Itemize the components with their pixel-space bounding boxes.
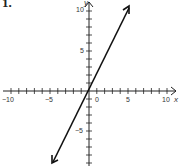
y-tick-label-5: 5 xyxy=(80,47,84,54)
y-axis-label: y xyxy=(84,0,88,7)
x-tick-label-0: 0 xyxy=(95,96,99,103)
series-line xyxy=(52,6,129,163)
y-tick-label-neg5: −5 xyxy=(75,127,83,134)
x-axis-label: x xyxy=(174,95,178,104)
y-tick-label-10: 10 xyxy=(76,6,84,13)
x-tick-label-neg5: −5 xyxy=(45,96,53,103)
line-graph xyxy=(0,0,180,166)
x-tick-label-5: 5 xyxy=(126,96,130,103)
x-tick-label-neg10: −10 xyxy=(2,96,14,103)
x-tick-label-10: 10 xyxy=(162,96,170,103)
